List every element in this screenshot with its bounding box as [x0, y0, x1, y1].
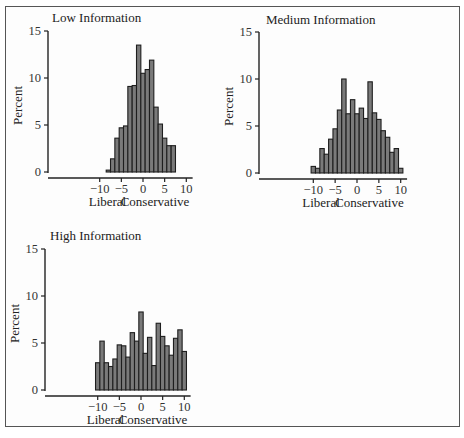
histogram-bar — [364, 118, 368, 173]
histogram-bar — [311, 166, 315, 173]
histogram-bar — [182, 351, 186, 390]
histogram-bar — [385, 137, 389, 173]
x-axis-label-conservative: Conservative — [121, 194, 190, 209]
histogram-bar — [337, 110, 341, 173]
histogram-bar — [377, 119, 381, 173]
x-axis-label-conservative: Conservative — [119, 412, 188, 427]
y-tick-label: 0 — [32, 383, 38, 397]
y-tick-label: 0 — [246, 166, 252, 180]
histogram-bar — [342, 79, 346, 173]
histogram-bar — [162, 138, 166, 172]
histogram-bar — [124, 126, 128, 172]
histogram-bar — [100, 341, 104, 390]
y-tick-label: 10 — [240, 72, 253, 86]
y-axis-label: Percent — [10, 86, 25, 125]
panel-title: High Information — [50, 228, 142, 243]
histogram-bar — [115, 138, 119, 172]
histogram-bar — [178, 330, 182, 390]
histogram-bar — [333, 129, 337, 173]
histogram-bar — [128, 86, 132, 172]
y-tick-label: 0 — [35, 165, 41, 179]
histogram-bar — [96, 363, 100, 390]
histogram-bar — [130, 333, 134, 390]
histogram-bar — [329, 139, 333, 173]
y-tick-label: 5 — [246, 119, 252, 133]
histogram-bar — [109, 367, 113, 391]
y-tick-label: 15 — [240, 25, 253, 39]
histogram-bar — [113, 359, 117, 390]
histogram-bar — [147, 337, 151, 390]
histogram-bar — [359, 108, 363, 173]
histogram-medium-information: Medium Information 051015Percent−10−5051… — [221, 12, 407, 210]
histogram-bar — [119, 128, 123, 172]
histogram-bar — [394, 149, 398, 173]
histogram-bar — [139, 312, 143, 390]
histogram-bar — [158, 124, 162, 172]
histogram-bar — [372, 113, 376, 173]
y-tick-label: 15 — [26, 242, 39, 256]
histogram-bar — [324, 154, 328, 173]
histogram-bar — [156, 323, 160, 390]
y-tick-label: 10 — [29, 71, 42, 85]
histogram-bar — [390, 152, 394, 173]
y-tick-label: 15 — [29, 24, 42, 38]
histogram-bar — [165, 346, 169, 390]
histogram-bar — [106, 170, 110, 172]
histogram-bar — [122, 346, 126, 390]
y-axis-label: Percent — [221, 87, 236, 126]
histogram-bar — [104, 363, 108, 390]
histogram-bar — [368, 82, 372, 173]
histogram-bar — [399, 168, 403, 173]
histogram-bar — [350, 100, 354, 173]
histogram-bar — [132, 86, 136, 172]
panel-title: Low Information — [52, 10, 142, 25]
y-axis-label: Percent — [7, 304, 22, 343]
histogram-bar — [320, 149, 324, 173]
histogram-bar — [117, 345, 121, 390]
histogram-bar — [171, 146, 175, 172]
histogram-bar — [381, 131, 385, 173]
histogram-bar — [173, 338, 177, 390]
histogram-bar — [154, 107, 158, 172]
histogram-bar — [135, 341, 139, 390]
histogram-bar — [169, 355, 173, 390]
histogram-low-information: Low Information 051015Percent−10−50510Li… — [10, 10, 193, 209]
histogram-bar — [145, 70, 149, 172]
histogram-bar — [149, 60, 153, 172]
histogram-bar — [143, 353, 147, 390]
y-tick-label: 5 — [32, 336, 38, 350]
panel-title: Medium Information — [266, 12, 376, 27]
histogram-bar — [160, 336, 164, 390]
histogram-bar — [111, 159, 115, 172]
histogram-figure: Low Information 051015Percent−10−50510Li… — [0, 0, 464, 438]
histogram-bar — [355, 114, 359, 173]
histogram-bar — [167, 146, 171, 172]
histogram-bar — [152, 366, 156, 390]
histogram-bar — [346, 114, 350, 173]
histogram-bar — [141, 73, 145, 172]
y-tick-label: 10 — [26, 289, 39, 303]
y-tick-label: 5 — [35, 118, 41, 132]
histogram-bar — [315, 168, 319, 173]
histogram-high-information: High Information 051015Percent−10−50510L… — [7, 228, 191, 427]
histogram-bar — [126, 357, 130, 390]
histogram-bar — [137, 45, 141, 172]
x-axis-label-conservative: Conservative — [335, 195, 404, 210]
